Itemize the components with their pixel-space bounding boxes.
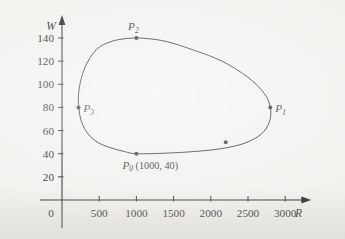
point-label-text: P1 (274, 102, 286, 117)
data-point-p3 (77, 105, 81, 109)
x-axis-tick-label: 2000 (200, 207, 223, 219)
x-axis-arrowhead (301, 197, 311, 204)
point-label-p0: P0 (1000, 40) (121, 159, 178, 174)
point-label-text: P2 (127, 20, 139, 35)
x-axis-tick-label: 500 (91, 207, 108, 219)
point-label-text: P0 (1000, 40) (121, 159, 178, 174)
y-axis-tick-label: 80 (43, 101, 55, 113)
y-axis-tick-label: 40 (43, 148, 55, 160)
point-label-p3: P3 (83, 102, 95, 117)
point-label-p1: P1 (274, 102, 286, 117)
y-axis-tick-label: 120 (37, 55, 54, 67)
data-point-p0 (134, 152, 138, 156)
trajectory-curve (78, 38, 271, 154)
point-coordinates: (1000, 40) (133, 160, 178, 172)
origin-label: 0 (48, 207, 54, 219)
y-axis-tick-label: 60 (43, 125, 55, 137)
point-label-subscript: 2 (135, 26, 139, 35)
phase-plane-plot: 5001000150020002500300002040608010012014… (0, 0, 345, 239)
point-label-p2: P2 (127, 20, 139, 35)
x-axis-name: R (294, 207, 302, 220)
points-layer (77, 36, 273, 156)
y-axis-arrowhead (59, 15, 66, 25)
x-axis-tick-label: 2500 (237, 207, 260, 219)
point-label-text: P3 (83, 102, 95, 117)
data-point-p2 (134, 36, 138, 40)
axes-layer: 5001000150020002500300002040608010012014… (37, 15, 311, 228)
x-axis-tick-label: 1500 (162, 207, 185, 219)
labels-layer: P0 (1000, 40)P1P2P3 (83, 20, 286, 173)
y-axis-tick-label: 140 (37, 32, 54, 44)
curve-layer (78, 38, 271, 154)
data-point-p1 (268, 105, 272, 109)
data-point-pu (224, 140, 228, 144)
y-axis-name: W (46, 20, 57, 33)
point-label-subscript: 1 (282, 108, 286, 117)
figure-container: 5001000150020002500300002040608010012014… (0, 0, 345, 239)
y-axis-tick-label: 20 (43, 171, 55, 183)
y-axis-tick-label: 100 (37, 78, 54, 90)
x-axis-tick-label: 1000 (125, 207, 148, 219)
point-label-subscript: 3 (89, 108, 94, 117)
x-axis-tick-label: 3000 (274, 207, 297, 219)
